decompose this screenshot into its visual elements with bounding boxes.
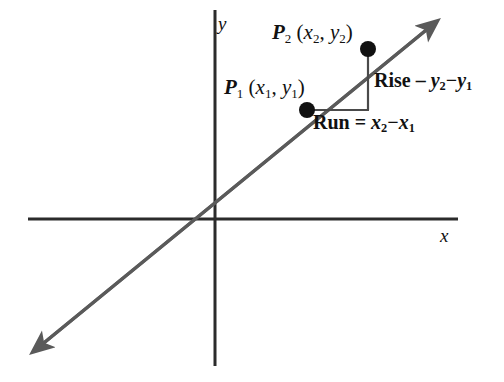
- point-label-p1-close: ): [298, 75, 305, 99]
- run-label-op-glyph: =: [355, 111, 366, 133]
- point-label-p1-base: P: [224, 75, 237, 99]
- rise-label-sub-a: 2: [440, 79, 446, 93]
- point-label-p2-xvar: x: [304, 20, 313, 44]
- run-label-sub-b: 1: [409, 121, 415, 135]
- point-label-p1-ysub: 1: [291, 86, 298, 101]
- x-axis-label: x: [440, 226, 448, 245]
- point-label-p2-ysub: 2: [339, 31, 346, 46]
- point-label-p2-xsub: 2: [313, 31, 320, 46]
- run-label-var-a: x: [371, 111, 381, 133]
- point-label-p1-yvar: y: [282, 75, 291, 99]
- point-label-p1-comma: ,: [271, 75, 282, 99]
- rise-label-op-glyph: –: [416, 69, 426, 91]
- run-label-sub-a: 2: [381, 121, 387, 135]
- point-label-p2-space: (: [291, 20, 303, 44]
- point-label-p2-comma: ,: [319, 20, 330, 44]
- point-label-p1-xsub: 1: [265, 86, 272, 101]
- point-label-p2-base: P: [272, 20, 285, 44]
- rise-label-var-a: y: [431, 69, 440, 91]
- run-label-name: Run: [313, 111, 350, 133]
- point-label-p2-yvar: y: [330, 20, 339, 44]
- point-label-p1-space: (: [243, 75, 255, 99]
- point-label-p2-sub: 2: [285, 31, 292, 46]
- rise-label-minus: −: [446, 69, 457, 91]
- rise-label: Rise – y2−y1: [374, 70, 472, 90]
- run-label-var-b: x: [399, 111, 409, 133]
- rise-label-name: Rise: [374, 69, 411, 91]
- point-label-p1-sub: 1: [237, 86, 244, 101]
- point-label-p1: P1 (x1, y1): [224, 77, 305, 98]
- run-label-minus: −: [387, 111, 398, 133]
- rise-label-var-b: y: [457, 69, 466, 91]
- point-label-p2-close: ): [346, 20, 353, 44]
- point-label-p1-xvar: x: [256, 75, 265, 99]
- slope-diagram: y x P2 (x2, y2) P1 (x1, y1) Rise – y2−y1…: [0, 0, 504, 382]
- run-label: Run = x2−x1: [313, 112, 415, 132]
- point-marker-p2: [360, 41, 376, 57]
- diagram-canvas: [0, 0, 504, 382]
- point-label-p2: P2 (x2, y2): [272, 22, 353, 43]
- y-axis-label: y: [218, 14, 226, 33]
- rise-label-sub-b: 1: [466, 79, 472, 93]
